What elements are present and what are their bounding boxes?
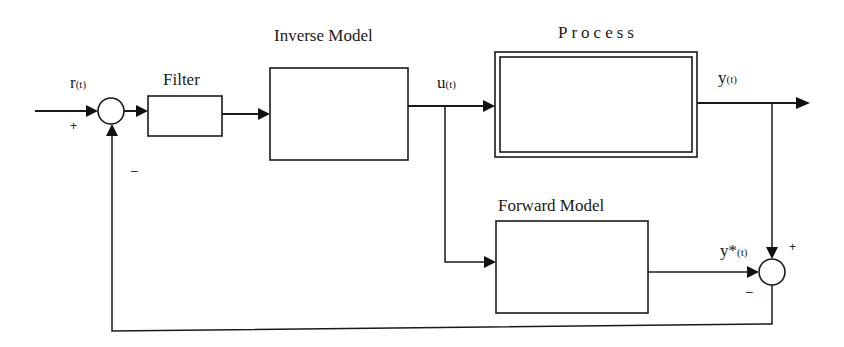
plus-sign: + (789, 240, 796, 254)
arrow-icon (747, 266, 759, 278)
arrow-icon (483, 100, 495, 112)
arrow-icon (136, 105, 148, 117)
input-summing-junction (98, 98, 124, 124)
model-output-label: y*(t) (720, 241, 748, 260)
control-signal-label: u(t) (437, 73, 456, 92)
minus-sign: – (131, 164, 138, 178)
control-branch-wire (445, 106, 486, 262)
arrow-icon (258, 108, 270, 120)
forward-model-block: Forward Model (496, 196, 648, 313)
process-box-inner (500, 57, 692, 152)
forward-model-label: Forward Model (498, 196, 605, 215)
arrow-icon (106, 124, 118, 136)
inverse-model-box (270, 68, 408, 160)
minus-sign: – (746, 285, 753, 299)
process-block: Process (495, 23, 697, 157)
filter-label: Filter (163, 70, 200, 89)
inverse-model-block: Inverse Model (270, 26, 408, 160)
filter-block: Filter (148, 70, 222, 136)
error-summing-junction (759, 259, 785, 285)
filter-box (148, 96, 222, 136)
output-label: y(t) (718, 68, 737, 87)
feedback-wire (112, 134, 772, 331)
reference-input: r(t) + – (35, 73, 138, 178)
imc-block-diagram: r(t) + – Filter Inverse Model u(t) Proce… (0, 0, 844, 347)
arrow-icon (484, 256, 496, 268)
arrow-icon (86, 105, 98, 117)
process-label: Process (558, 23, 638, 42)
inverse-model-label: Inverse Model (274, 26, 373, 45)
arrow-icon (796, 97, 810, 109)
arrow-icon (766, 247, 778, 259)
forward-model-box (496, 221, 648, 313)
plus-sign: + (70, 119, 77, 133)
reference-label: r(t) (70, 73, 86, 92)
